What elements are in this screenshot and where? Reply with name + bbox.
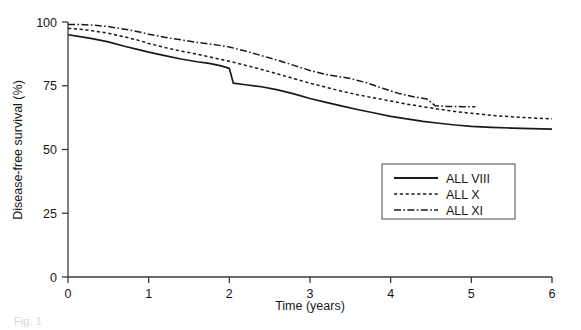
series-line-all-xi xyxy=(68,25,475,107)
x-tick-label: 2 xyxy=(226,287,233,301)
axes xyxy=(68,22,552,277)
y-tick-label: 0 xyxy=(50,271,57,285)
chart-legend: ALL VIIIALL XALL XI xyxy=(382,164,515,219)
figure-caption: Fig. 1 xyxy=(14,315,42,327)
x-tick-label: 4 xyxy=(387,287,394,301)
x-tick-label: 1 xyxy=(145,287,152,301)
y-axis-label: Disease-free survival (%) xyxy=(11,80,25,220)
figure-container: 0255075100 0123456 Disease-free survival… xyxy=(0,0,581,330)
y-tick-label: 75 xyxy=(43,79,57,93)
survival-chart: 0255075100 0123456 Disease-free survival… xyxy=(0,0,581,330)
legend-label-all-xi: ALL XI xyxy=(446,204,483,218)
series-line-all-x xyxy=(68,28,552,119)
x-tick-label: 0 xyxy=(65,287,72,301)
x-axis-ticks: 0123456 xyxy=(65,277,556,301)
series-line-all-viii xyxy=(68,35,552,129)
legend-label-all-viii: ALL VIII xyxy=(446,172,490,186)
x-axis-label: Time (years) xyxy=(275,299,345,313)
data-series-group xyxy=(68,25,552,130)
legend-label-all-x: ALL X xyxy=(446,188,480,202)
x-tick-label: 6 xyxy=(549,287,556,301)
y-tick-label: 25 xyxy=(43,207,57,221)
y-axis-ticks: 0255075100 xyxy=(36,16,68,285)
y-tick-label: 100 xyxy=(36,16,57,30)
x-tick-label: 5 xyxy=(468,287,475,301)
y-tick-label: 50 xyxy=(43,143,57,157)
